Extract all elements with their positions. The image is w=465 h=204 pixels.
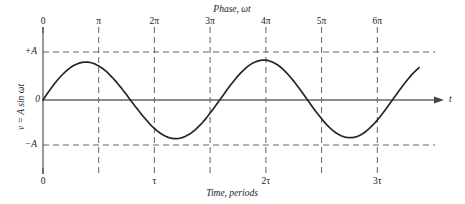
bottom-tick-label-1: τ xyxy=(152,177,156,187)
bottom-tick-label-0: 0 xyxy=(41,177,46,187)
y-tick-label-zero: 0 xyxy=(35,95,40,105)
y-axis-title: v = A sin ωt xyxy=(16,84,26,130)
top-tick-label-0: 0 xyxy=(41,17,46,27)
top-tick-label-2: 2π xyxy=(150,17,160,27)
bottom-axis-title: Time, periods xyxy=(206,189,258,199)
top-tick-label-6: 6π xyxy=(373,17,383,27)
y-tick-label-minus-a: −A xyxy=(25,140,37,150)
top-tick-label-1: π xyxy=(96,17,101,27)
bottom-tick-label-2: 2τ xyxy=(262,177,271,187)
top-tick-label-4: 4π xyxy=(261,17,271,27)
top-tick-label-3: 3π xyxy=(205,17,215,27)
top-tick-label-5: 5π xyxy=(317,17,327,27)
y-tick-label-plus-a: +A xyxy=(25,47,37,57)
x-axis-arrowhead xyxy=(434,97,444,104)
bottom-tick-label-3: 3τ xyxy=(373,177,382,187)
x-axis-variable-label: t xyxy=(449,95,452,105)
sine-wave-plot xyxy=(0,0,465,204)
top-axis-title: Phase, ωt xyxy=(213,5,250,15)
sine-wave-figure: Phase, ωt 0 π 2π 3π 4π 5π 6π +A 0 −A v =… xyxy=(0,0,465,204)
